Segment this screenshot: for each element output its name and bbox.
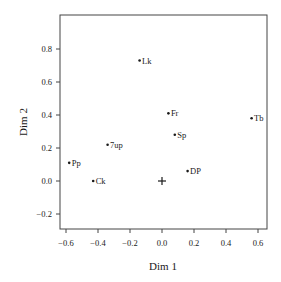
y-tick-label: 0.6 — [41, 77, 52, 87]
y-axis-ticks: −0.20.00.20.40.60.8 — [37, 44, 60, 219]
point-label: Tb — [254, 113, 263, 123]
y-axis-label: Dim 2 — [17, 108, 29, 136]
point-label: Ck — [96, 176, 107, 186]
y-tick-label: −0.2 — [37, 209, 52, 219]
x-axis-ticks: −0.6−0.4−0.20.00.20.40.6 — [58, 229, 263, 248]
x-tick-label: 0.0 — [157, 238, 168, 248]
point-label: Lk — [142, 56, 152, 66]
scatter-chart: −0.6−0.4−0.20.00.20.40.6 −0.20.00.20.40.… — [0, 0, 281, 282]
point-marker — [106, 143, 109, 146]
x-tick-label: 0.4 — [221, 238, 232, 248]
point-marker — [250, 117, 253, 120]
data-point: Pp — [68, 158, 81, 168]
x-tick-label: 0.2 — [189, 238, 200, 248]
point-label: Pp — [72, 158, 81, 168]
data-points: LkFrTbSp7upPpCkDP — [68, 56, 264, 186]
point-label: 7up — [110, 140, 123, 150]
point-label: Sp — [177, 130, 186, 140]
x-axis-label: Dim 1 — [149, 260, 177, 272]
data-point: Sp — [174, 130, 187, 140]
point-marker — [138, 59, 141, 62]
point-marker — [174, 134, 177, 137]
plot-frame — [60, 15, 267, 229]
x-tick-label: 0.6 — [253, 238, 264, 248]
x-tick-label: −0.6 — [58, 238, 73, 248]
data-point: Tb — [250, 113, 263, 123]
point-marker — [68, 162, 71, 165]
point-marker — [186, 170, 189, 173]
data-point: Lk — [138, 56, 152, 66]
point-label: DP — [190, 166, 201, 176]
x-tick-label: −0.2 — [122, 238, 137, 248]
data-point: Ck — [92, 176, 106, 186]
data-point: Fr — [167, 108, 179, 118]
origin-marker — [158, 177, 166, 185]
data-point: DP — [186, 166, 201, 176]
y-tick-label: 0.0 — [41, 176, 52, 186]
point-marker — [92, 180, 95, 183]
y-tick-label: 0.8 — [41, 44, 52, 54]
y-tick-label: 0.2 — [41, 143, 52, 153]
point-label: Fr — [171, 108, 179, 118]
data-point: 7up — [106, 140, 123, 150]
point-marker — [167, 112, 170, 115]
y-tick-label: 0.4 — [41, 110, 52, 120]
x-tick-label: −0.4 — [90, 238, 106, 248]
